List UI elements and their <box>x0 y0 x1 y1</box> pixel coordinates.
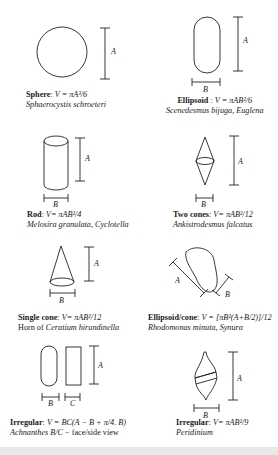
single-cone-shape <box>50 246 94 297</box>
dim-label-a: A <box>243 36 248 45</box>
dim-label-a: A <box>111 47 116 56</box>
sphere-shape <box>37 27 110 79</box>
caption-ellipsoid: Ellipsoid : V = πAB²/6 Scenedesmus bijug… <box>166 96 264 116</box>
dim-label-b: B <box>59 296 64 305</box>
caption-ellipsoid-cone: Ellipsoid/cone: V = [πB²(A+B/2)]/12 Rhod… <box>148 313 272 333</box>
dim-label-a: A <box>237 374 242 383</box>
dim-label-a: A <box>238 157 243 166</box>
dim-label-a: A <box>85 154 90 163</box>
bottom-strip <box>0 447 278 455</box>
ellipsoid-cone-shape <box>169 248 233 297</box>
dim-label-a: A <box>175 276 180 285</box>
caption-rod: Rod: V= πAB²/4 Melosira granulata, Cyclo… <box>27 210 129 230</box>
irregular-achnanthes-shape <box>41 346 99 401</box>
ellipsoid-shape <box>192 17 243 86</box>
caption-irregular-achnanthes: Irregular: V = BC(A − B + π/4. B) Achnan… <box>10 418 126 438</box>
dim-label-c: C <box>70 399 75 408</box>
dim-label-b: B <box>225 290 230 299</box>
dim-label-a: A <box>98 361 103 370</box>
irregular-peridinium-shape <box>194 352 238 412</box>
dim-label-b: B <box>48 399 53 408</box>
dim-label-b: B <box>203 85 208 94</box>
two-cones-shape <box>196 136 239 202</box>
rod-shape <box>44 136 85 202</box>
dim-label-b: B <box>53 200 58 209</box>
caption-two-cones: Two cones: V= πAB²/12 Ankistrodesmus fal… <box>173 210 253 230</box>
dim-label-a: A <box>94 259 99 268</box>
dim-label-b: B <box>201 200 206 209</box>
caption-sphere: Sphere: V = πA³/6 Sphaerocystis schroete… <box>26 90 106 110</box>
caption-single-cone: Single cone: V= πAB²/12 Horn of Ceratium… <box>18 313 119 333</box>
caption-irregular-peridinium: Irregular: V= πAB²/9 Peridinium <box>176 418 248 438</box>
